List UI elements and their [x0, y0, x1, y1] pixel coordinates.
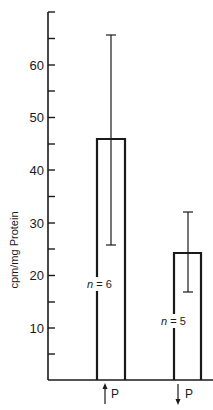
y-axis-label: cpm/mg Protein — [8, 211, 20, 288]
tick-label-60: 60 — [30, 58, 44, 73]
tick-label-20: 20 — [30, 268, 44, 283]
bar-chart: 60 50 40 30 20 10 cpm/mg Protein n = 6 P… — [0, 0, 213, 410]
bar-2-n-label: n = 5 — [161, 315, 186, 327]
bar-1: n = 6 P — [85, 35, 125, 404]
bar-2-p-label: P — [185, 387, 193, 401]
tick-label-40: 40 — [30, 163, 44, 178]
tick-label-30: 30 — [30, 216, 44, 231]
tick-label-50: 50 — [30, 110, 44, 125]
y-tick-labels: 60 50 40 30 20 10 — [30, 58, 44, 336]
bar-1-p-label: P — [111, 387, 119, 401]
y-ticks — [48, 12, 55, 354]
bar-1-n-label: n = 6 — [87, 278, 112, 290]
arrow-down-head-icon — [176, 399, 181, 405]
tick-label-10: 10 — [30, 321, 44, 336]
arrow-up-head-icon — [103, 383, 108, 389]
bar-2: n = 5 P — [160, 212, 201, 405]
